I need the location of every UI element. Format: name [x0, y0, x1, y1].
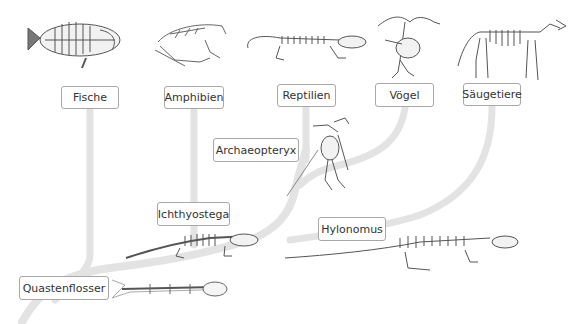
hylonomus-skeleton-icon	[285, 236, 518, 270]
ichthyostega-skeleton-icon	[126, 234, 258, 258]
evolution-tree-diagram: Fische Amphibien Reptilien Vögel Säugeti…	[0, 0, 577, 324]
label-ichthyostega: Ichthyostega	[157, 202, 230, 226]
fish-skeleton-icon	[28, 22, 120, 68]
lizard-skeleton-icon	[248, 36, 366, 60]
label-archaeopteryx: Archaeopteryx	[213, 138, 299, 162]
label-quastenflosser: Quastenflosser	[19, 276, 109, 300]
label-hylonomus: Hylonomus	[318, 217, 386, 241]
label-amphibien: Amphibien	[164, 86, 224, 109]
frog-skeleton-icon	[155, 25, 226, 66]
label-reptilien: Reptilien	[277, 84, 336, 107]
label-saeugetiere: Säugetiere	[463, 83, 521, 106]
dog-skeleton-icon	[458, 20, 566, 80]
coelacanth-skeleton-icon	[112, 280, 227, 298]
label-fische: Fische	[61, 86, 119, 109]
bird-skeleton-icon	[378, 17, 440, 78]
label-voegel: Vögel	[375, 83, 434, 107]
